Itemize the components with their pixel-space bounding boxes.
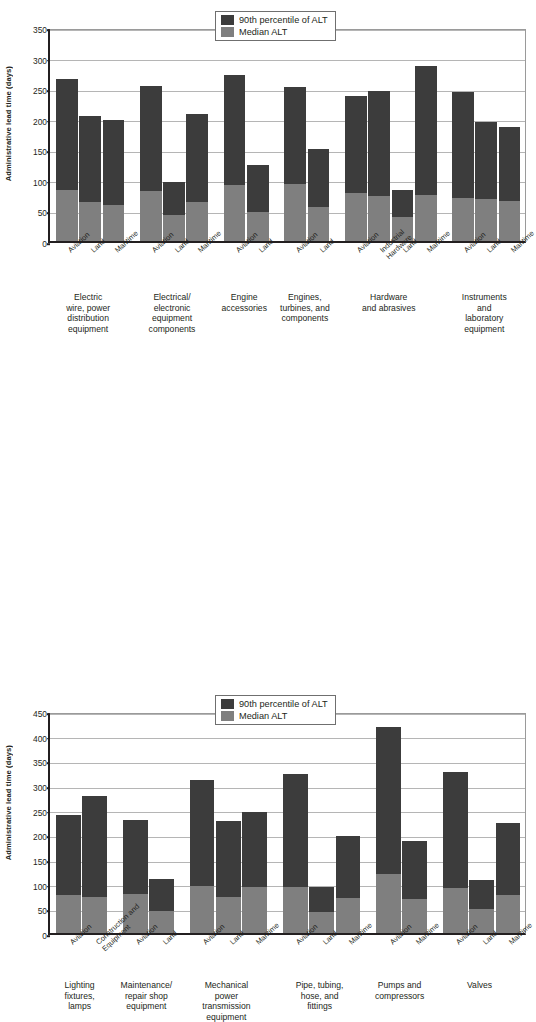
y-axis-tick-label: 100 <box>33 178 47 188</box>
bar-aviation <box>283 774 308 933</box>
y-axis-tick-label: 200 <box>33 117 47 127</box>
bar-maritime <box>499 127 521 241</box>
legend-swatch-median-icon <box>221 711 234 721</box>
legend-label-median: Median ALT <box>239 27 287 37</box>
bar-maritime <box>496 823 521 934</box>
gridline <box>50 60 525 61</box>
bar-land <box>79 116 101 241</box>
plot-area-top: 050100150200250300350 <box>48 29 526 243</box>
y-axis-tick-label: 300 <box>33 56 47 66</box>
group-caption: Electricwire, powerdistributionequipment <box>40 292 136 334</box>
bar-aviation <box>56 815 81 933</box>
bar-aviation <box>345 96 367 241</box>
y-axis-tick-label: 100 <box>33 882 47 892</box>
y-axis-tick-mark <box>47 213 51 215</box>
bar-median-segment <box>496 895 521 933</box>
bar-maritime <box>336 836 361 933</box>
y-axis-tick-mark <box>47 812 51 814</box>
y-axis-tick-mark <box>47 861 51 863</box>
bar-median-segment <box>415 195 437 241</box>
bar-median-segment <box>283 887 308 933</box>
y-axis-tick-label: 400 <box>33 734 47 744</box>
y-axis-label-bottom: Administrative lead time (days) <box>4 745 13 860</box>
y-axis-tick-mark <box>47 738 51 740</box>
legend-label-median: Median ALT <box>239 711 287 721</box>
legend-swatch-p90-icon <box>221 699 234 709</box>
group-caption: Hardwareand abrasives <box>341 292 437 313</box>
y-axis-tick-mark <box>47 886 51 888</box>
bar-construction-and-equipment <box>82 796 107 933</box>
y-axis-tick-mark <box>47 60 51 62</box>
bar-median-segment <box>443 888 468 933</box>
bar-median-segment <box>186 202 208 241</box>
chart-panel-bottom: Administrative lead time (days) 05010015… <box>0 345 534 671</box>
y-axis-tick-mark <box>47 121 51 123</box>
legend-bottom: 90th percentile of ALT Median ALT <box>215 695 336 725</box>
y-axis-tick-mark <box>47 837 51 839</box>
bar-aviation <box>284 87 306 241</box>
bar-median-segment <box>452 198 474 241</box>
gridline <box>50 738 525 739</box>
group-caption: Instrumentsandlaboratoryequipment <box>436 292 532 334</box>
y-axis-tick-mark <box>47 243 51 245</box>
bar-median-segment <box>56 895 81 933</box>
chart-panel-top: Administrative lead time (days) 05010015… <box>0 0 534 345</box>
bar-aviation <box>452 92 474 241</box>
bar-median-segment <box>336 898 361 933</box>
y-axis-tick-label: 250 <box>33 808 47 818</box>
bar-land <box>308 149 330 241</box>
bar-median-segment <box>376 874 401 933</box>
group-caption: Mechanicalpowertransmissionequipment <box>178 980 274 1022</box>
y-axis-tick-label: 200 <box>33 832 47 842</box>
y-axis-tick-label: 350 <box>33 25 47 35</box>
bar-median-segment <box>190 886 215 933</box>
bar-land <box>247 165 269 241</box>
bar-median-segment <box>242 887 267 933</box>
gridline <box>50 763 525 764</box>
bar-aviation <box>56 79 78 241</box>
y-axis-tick-mark <box>47 151 51 153</box>
bar-aviation <box>443 772 468 933</box>
bar-median-segment <box>103 205 125 241</box>
y-axis-tick-label: 150 <box>33 147 47 157</box>
legend-swatch-p90-icon <box>221 15 234 25</box>
bar-median-segment <box>56 190 78 241</box>
bar-aviation <box>190 780 215 933</box>
bar-median-segment <box>140 191 162 241</box>
y-axis-tick-label: 250 <box>33 86 47 96</box>
bar-aviation <box>376 727 401 933</box>
bar-median-segment <box>345 193 367 241</box>
legend-item-p90: 90th percentile of ALT <box>221 699 328 709</box>
y-axis-tick-mark <box>47 935 51 937</box>
y-axis-label-top: Administrative lead time (days) <box>4 66 13 181</box>
bar-land <box>475 122 497 241</box>
legend-item-median: Median ALT <box>221 27 328 37</box>
legend-item-median: Median ALT <box>221 711 328 721</box>
bar-industrial-hardware <box>368 91 390 241</box>
legend-top: 90th percentile of ALT Median ALT <box>215 11 336 41</box>
y-axis-tick-label: 350 <box>33 758 47 768</box>
bar-median-segment <box>284 184 306 241</box>
bar-median-segment <box>224 185 246 241</box>
y-axis-tick-label: 300 <box>33 783 47 793</box>
y-axis-tick-label: 150 <box>33 857 47 867</box>
group-caption: Valves <box>432 980 528 991</box>
bar-median-segment <box>499 201 521 241</box>
y-axis-tick-mark <box>47 763 51 765</box>
bar-aviation <box>140 86 162 241</box>
y-axis-tick-mark <box>47 787 51 789</box>
y-axis-tick-mark <box>47 713 51 715</box>
bar-maritime <box>103 120 125 241</box>
bar-aviation <box>224 75 246 241</box>
bar-land <box>216 821 241 933</box>
legend-swatch-median-icon <box>221 27 234 37</box>
bar-maritime <box>242 812 267 933</box>
bar-maritime <box>186 114 208 241</box>
y-axis-tick-mark <box>47 90 51 92</box>
bar-maritime <box>415 66 437 241</box>
y-axis-tick-mark <box>47 182 51 184</box>
legend-item-p90: 90th percentile of ALT <box>221 15 328 25</box>
plot-area-bottom: 050100150200250300350400450 <box>48 713 526 935</box>
y-axis-tick-mark <box>47 911 51 913</box>
